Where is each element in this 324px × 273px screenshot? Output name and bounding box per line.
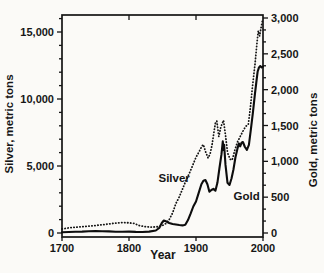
x-axis-tick-label: 1900 — [184, 242, 208, 254]
left-axis-tick-label: 15,000 — [20, 26, 54, 38]
left-axis-title: Silver, metric tons — [3, 74, 15, 173]
right-axis-tick-label: 1,500 — [271, 120, 299, 132]
plot-border — [62, 15, 263, 237]
right-axis-tick-label: 3,000 — [271, 12, 299, 24]
left-axis-tick-label: 5,000 — [26, 160, 54, 172]
silver-gold-production-figure: 05,00010,00015,00005001,0001,5002,0002,5… — [0, 0, 324, 273]
silver-gold-production-chart: 05,00010,00015,00005001,0001,5002,0002,5… — [0, 0, 324, 273]
right-axis-title: Gold, metric tons — [307, 93, 319, 188]
gold-curve-label: Gold — [234, 190, 260, 202]
left-axis-tick-label: 0 — [48, 227, 54, 239]
right-axis-tick-label: 2,500 — [271, 48, 299, 60]
x-axis-tick-label: 1700 — [50, 242, 74, 254]
left-axis-tick-label: 10,000 — [20, 93, 54, 105]
x-axis-title: Year — [150, 248, 176, 262]
axis-ticks — [57, 15, 268, 241]
x-axis-tick-label: 1800 — [117, 242, 141, 254]
gold-curve — [62, 66, 263, 232]
right-axis-tick-label: 2,000 — [271, 84, 299, 96]
x-axis-tick-label: 2000 — [251, 242, 275, 254]
right-axis-tick-label: 500 — [271, 191, 289, 203]
silver-curve-label: Silver — [158, 172, 190, 184]
right-axis-tick-label: 0 — [271, 227, 277, 239]
right-axis-tick-label: 1,000 — [271, 155, 299, 167]
